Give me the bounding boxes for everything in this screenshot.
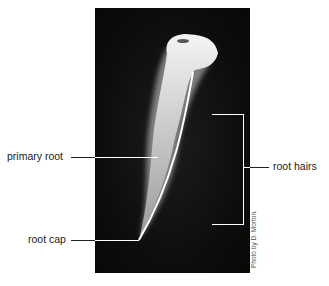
leader-root-hairs [250,167,269,168]
bracket-top [212,114,243,115]
leader-primary-root-inner [95,157,158,158]
bracket-bottom [212,224,243,225]
label-root-cap: root cap [28,233,66,245]
root-seedling-image [95,8,250,273]
bracket-spine [243,114,244,225]
leader-primary-root [71,157,95,158]
leader-root-cap-inner [95,240,139,241]
figure: primary root root cap root hairs Photo b… [0,0,329,286]
label-root-hairs: root hairs [273,160,317,172]
bracket-tick [243,167,250,168]
leader-root-cap [71,240,95,241]
photo-credit: Photo by D. Morton. [250,210,257,268]
root-photo [95,8,250,273]
label-primary-root: primary root [7,150,63,162]
